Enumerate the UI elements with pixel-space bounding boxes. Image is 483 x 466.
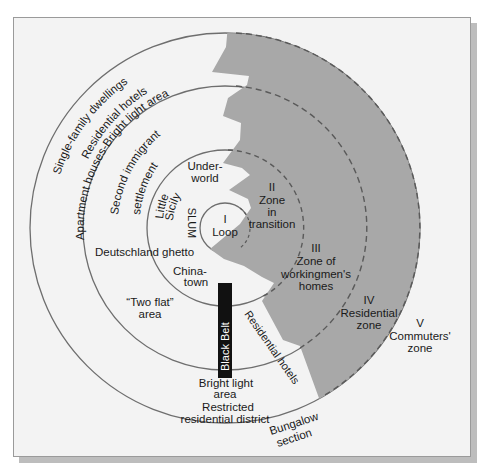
label-bright-light-2: area xyxy=(213,388,237,400)
label-deutschland-ghetto: Deutschland ghetto xyxy=(95,246,194,258)
zone-iii-line3: homes xyxy=(299,280,334,292)
zone-ii-line2: in xyxy=(268,206,277,218)
zone-ii-numeral: II xyxy=(269,181,275,193)
zone-v-line2: zone xyxy=(408,342,433,354)
zone-v-numeral: V xyxy=(416,317,424,329)
zone-iii-line1: Zone of xyxy=(297,255,337,267)
label-restricted-1: Restricted xyxy=(202,401,254,413)
label-chinatown-2: town xyxy=(184,276,208,288)
label-underworld-2: world xyxy=(190,172,218,184)
label-two-flat-1: “Two flat” xyxy=(126,296,173,308)
label-underworld-1: Under- xyxy=(187,160,222,172)
zone-i-numeral: I xyxy=(223,213,226,225)
label-slum: SLUM xyxy=(186,208,198,239)
zone-iv-line1: Residential xyxy=(341,307,398,319)
black-belt-bar: Black Belt xyxy=(218,283,232,378)
zone-ii-line1: Zone xyxy=(259,194,285,206)
label-two-flat-2: area xyxy=(138,308,162,320)
zone-iii-line2: workingmen's xyxy=(280,268,351,280)
shaded-sector xyxy=(210,25,480,466)
label-restricted-2: residential district xyxy=(181,413,271,425)
zone-v-line1: Commuters' xyxy=(389,330,451,342)
zone-i-name: Loop xyxy=(212,226,238,238)
zone-iii-numeral: III xyxy=(311,242,321,254)
zone-iv-line2: zone xyxy=(357,319,382,331)
zone-iv-numeral: IV xyxy=(364,294,375,306)
label-black-belt: Black Belt xyxy=(219,322,231,371)
concentric-zone-diagram: Black Belt I Loop II Zone in transition … xyxy=(0,0,483,466)
zone-ii-line3: transition xyxy=(249,218,296,230)
